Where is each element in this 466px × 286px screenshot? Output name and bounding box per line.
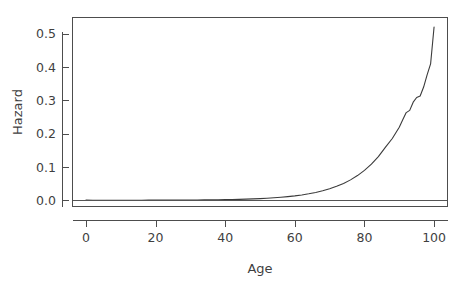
y-tick-label: 0.0 (36, 193, 56, 208)
x-axis-title: Age (247, 261, 272, 276)
x-tick-label: 60 (287, 230, 303, 245)
y-axis-ticks (63, 35, 69, 201)
x-tick-label: 0 (82, 230, 90, 245)
x-tick-label: 80 (356, 230, 372, 245)
y-tick-label: 0.3 (36, 93, 56, 108)
chart-canvas: 020406080100 0.00.10.20.30.40.5 Age Haza… (0, 0, 466, 286)
x-axis-ticks (87, 221, 435, 227)
y-tick-label: 0.2 (36, 126, 56, 141)
y-tick-label: 0.4 (36, 60, 56, 75)
y-tick-label: 0.5 (36, 26, 56, 41)
x-axis-tick-labels: 020406080100 (82, 230, 446, 245)
y-axis-tick-labels: 0.00.10.20.30.40.5 (36, 26, 56, 208)
x-tick-label: 40 (217, 230, 233, 245)
x-tick-label: 20 (148, 230, 164, 245)
plot-panel-background (72, 17, 448, 207)
x-tick-label: 100 (422, 230, 446, 245)
hazard-chart-figure: 020406080100 0.00.10.20.30.40.5 Age Haza… (0, 0, 466, 286)
y-tick-label: 0.1 (36, 160, 56, 175)
y-axis-title: Hazard (10, 89, 25, 135)
